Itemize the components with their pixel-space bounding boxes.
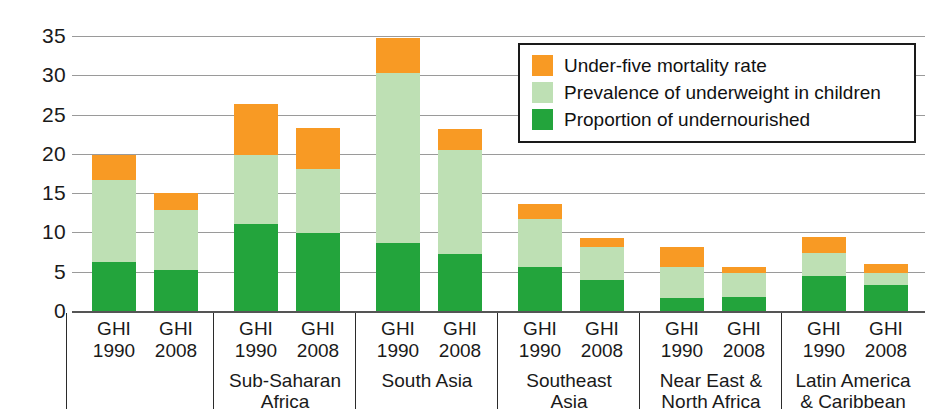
bar-caption-ghi: GHI [853, 318, 919, 340]
bar-caption: GHI2008 [853, 318, 919, 362]
segment-undernourished [722, 297, 766, 311]
bar-caption-ghi: GHI [223, 318, 289, 340]
group-caption: Sub-SaharanAfrica [214, 370, 356, 412]
segment-underweight-children [92, 180, 136, 263]
bar-caption: GHI2008 [711, 318, 777, 362]
segment-undernourished [154, 270, 198, 311]
stacked-bar-chart: 35302520151050 GHI1990GHI2008GHI1990GHI2… [0, 0, 933, 420]
bar-caption-ghi: GHI [81, 318, 147, 340]
segment-under-five-mortality [438, 129, 482, 150]
segment-under-five-mortality [154, 193, 198, 210]
bar-caption: GHI2008 [285, 318, 351, 362]
segment-under-five-mortality [580, 238, 624, 247]
segment-undernourished [580, 280, 624, 311]
bar-caption-year: 1990 [223, 340, 289, 362]
bar-caption-ghi: GHI [143, 318, 209, 340]
legend-swatch [532, 109, 553, 130]
stacked-bar[interactable] [234, 104, 278, 311]
group-caption-line1: Near East & [640, 370, 782, 391]
stacked-bar[interactable] [92, 155, 136, 311]
legend-item[interactable]: Prevalence of underweight in children [532, 79, 904, 106]
stacked-bar[interactable] [376, 38, 420, 311]
segment-undernourished [296, 233, 340, 311]
segment-undernourished [438, 254, 482, 311]
legend-swatch [532, 82, 553, 103]
chart-legend: Under-five mortality ratePrevalence of u… [518, 43, 916, 143]
bar-caption-year: 1990 [791, 340, 857, 362]
bar-caption-year: 2008 [427, 340, 493, 362]
legend-item[interactable]: Under-five mortality rate [532, 52, 904, 79]
segment-under-five-mortality [864, 264, 908, 273]
group-caption: SoutheastAsia [498, 370, 640, 412]
segment-under-five-mortality [376, 38, 420, 73]
group-caption-line2: Africa [214, 391, 356, 412]
segment-underweight-children [234, 155, 278, 224]
segment-under-five-mortality [92, 155, 136, 179]
y-tick-label-30: 30 [22, 64, 66, 85]
segment-undernourished [660, 298, 704, 311]
legend-label: Prevalence of underweight in children [564, 83, 881, 102]
bar-caption: GHI1990 [81, 318, 147, 362]
group-caption: Near East &North Africa [640, 370, 782, 412]
bar-caption-ghi: GHI [507, 318, 573, 340]
bar-caption: GHI1990 [649, 318, 715, 362]
segment-undernourished [92, 262, 136, 311]
y-axis: 35302520151050 [0, 0, 66, 420]
legend-swatch [532, 55, 553, 76]
bar-caption-year: 1990 [507, 340, 573, 362]
bar-caption-year: 2008 [143, 340, 209, 362]
group-caption-line1: Southeast [498, 370, 640, 391]
segment-underweight-children [518, 219, 562, 267]
stacked-bar[interactable] [438, 129, 482, 311]
bar-caption-ghi: GHI [569, 318, 635, 340]
stacked-bar[interactable] [518, 204, 562, 311]
bar-caption-ghi: GHI [649, 318, 715, 340]
bar-caption: GHI2008 [569, 318, 635, 362]
segment-underweight-children [802, 253, 846, 276]
segment-under-five-mortality [518, 204, 562, 219]
bar-caption: GHI1990 [507, 318, 573, 362]
bar-caption: GHI2008 [427, 318, 493, 362]
stacked-bar[interactable] [864, 264, 908, 311]
y-tick-label-0: 0 [22, 300, 66, 321]
bar-caption-ghi: GHI [285, 318, 351, 340]
segment-under-five-mortality [296, 128, 340, 169]
segment-underweight-children [864, 273, 908, 285]
bar-caption-ghi: GHI [711, 318, 777, 340]
stacked-bar[interactable] [296, 128, 340, 311]
bar-caption-year: 1990 [649, 340, 715, 362]
group-caption: South Asia [356, 370, 498, 391]
bar-caption-year: 1990 [365, 340, 431, 362]
segment-undernourished [234, 224, 278, 311]
group-caption-line2: Asia [498, 391, 640, 412]
group-caption-line1: South Asia [356, 370, 498, 391]
y-tick-label-20: 20 [22, 143, 66, 164]
group-divider [66, 313, 67, 409]
bar-caption-year: 2008 [285, 340, 351, 362]
bar-caption: GHI1990 [223, 318, 289, 362]
legend-label: Under-five mortality rate [564, 56, 767, 75]
bar-caption-ghi: GHI [791, 318, 857, 340]
legend-item[interactable]: Proportion of undernourished [532, 106, 904, 133]
bar-caption-year: 2008 [853, 340, 919, 362]
bar-caption-ghi: GHI [365, 318, 431, 340]
segment-underweight-children [154, 210, 198, 270]
y-tick-label-10: 10 [22, 221, 66, 242]
segment-undernourished [518, 267, 562, 311]
stacked-bar[interactable] [802, 237, 846, 311]
segment-underweight-children [660, 267, 704, 298]
stacked-bar[interactable] [154, 193, 198, 311]
stacked-bar[interactable] [660, 247, 704, 311]
segment-underweight-children [580, 247, 624, 280]
bar-caption: GHI1990 [365, 318, 431, 362]
segment-undernourished [864, 285, 908, 311]
segment-under-five-mortality [660, 247, 704, 267]
stacked-bar[interactable] [580, 238, 624, 311]
stacked-bar[interactable] [722, 267, 766, 311]
segment-underweight-children [722, 273, 766, 297]
bar-caption-ghi: GHI [427, 318, 493, 340]
bar-caption-year: 2008 [711, 340, 777, 362]
y-tick-label-25: 25 [22, 104, 66, 125]
group-caption-line1: Latin America [782, 370, 924, 391]
y-tick-label-35: 35 [22, 25, 66, 46]
